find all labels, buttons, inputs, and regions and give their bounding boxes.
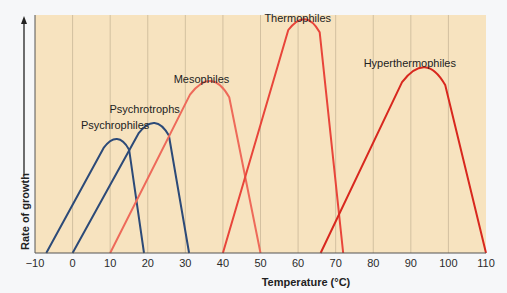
x-tick-label: 10 [104, 257, 116, 269]
x-tick-labels: −100102030405060708090100110 [26, 257, 495, 269]
x-tick-label: 110 [477, 257, 495, 269]
arrow-up-icon [21, 16, 27, 24]
label-psychrotrophs: Psychrotrophs [109, 103, 180, 115]
x-tick-label: −10 [26, 257, 45, 269]
growth-temperature-chart: PsychrophilesPsychrotrophsMesophilesTher… [0, 0, 507, 293]
label-psychrophiles: Psychrophiles [81, 119, 150, 131]
x-tick-label: 70 [330, 257, 342, 269]
label-hyperthermophiles: Hyperthermophiles [364, 57, 457, 69]
x-tick-label: 0 [70, 257, 76, 269]
x-tick-label: 100 [439, 257, 457, 269]
x-tick-label: 30 [179, 257, 191, 269]
label-thermophiles: Thermophiles [264, 12, 331, 24]
x-tick-label: 20 [142, 257, 154, 269]
y-axis-title-group: Rate of growth [17, 16, 31, 253]
y-axis-title: Rate of growth [19, 173, 31, 250]
x-axis-title: Temperature (°C) [262, 276, 351, 288]
x-tick-label: 40 [217, 257, 229, 269]
x-tick-label: 90 [405, 257, 417, 269]
x-tick-label: 50 [254, 257, 266, 269]
x-tick-label: 80 [367, 257, 379, 269]
x-tick-label: 60 [292, 257, 304, 269]
label-mesophiles: Mesophiles [174, 73, 230, 85]
